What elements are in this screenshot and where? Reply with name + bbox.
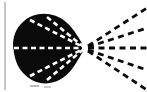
speckle-bottom-left bbox=[30, 85, 39, 87]
speckle-bottom-mid bbox=[44, 86, 51, 88]
figure-root bbox=[0, 0, 147, 92]
figure-canvas bbox=[0, 0, 147, 92]
